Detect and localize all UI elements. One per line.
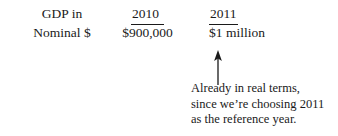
column-header-2010-label: 2010 [131, 4, 164, 25]
value-2011: $1 million [195, 23, 305, 42]
column-header-2010: 2010 [100, 4, 195, 25]
callout-line-1: Already in real terms, [191, 81, 337, 97]
gdp-nominal-figure: GDP in 2010 2011 Nominal $ $900,000 $1 m… [0, 0, 338, 136]
callout-line-3: as the reference year. [191, 112, 337, 128]
gdp-table: GDP in 2010 2011 Nominal $ $900,000 $1 m… [0, 4, 338, 42]
row-label-line1: GDP in [0, 4, 100, 23]
column-header-2011-label: 2011 [209, 4, 238, 25]
value-2010: $900,000 [100, 23, 195, 42]
table-value-row: Nominal $ $900,000 $1 million [0, 23, 338, 42]
column-header-2011: 2011 [195, 4, 305, 25]
callout-line-2: since we’re choosing 2011 [191, 97, 337, 113]
row-label-line2: Nominal $ [0, 23, 100, 42]
table-header-row: GDP in 2010 2011 [0, 4, 338, 23]
callout-note: Already in real terms, since we’re choos… [191, 81, 337, 128]
